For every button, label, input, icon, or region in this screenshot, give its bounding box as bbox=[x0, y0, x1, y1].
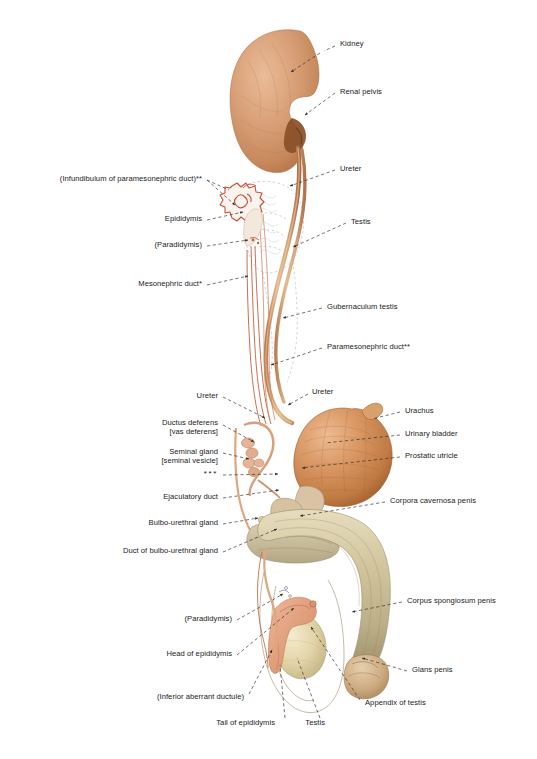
anatomy-illustration bbox=[0, 0, 537, 759]
label-infundibulum-paramesonephric-duct: (Infundibulum of paramesonephric duct)** bbox=[60, 174, 202, 183]
label-urinary-bladder: Urinary bladder bbox=[405, 429, 458, 438]
label-head-of-epididymis: Head of epididymis bbox=[167, 649, 232, 658]
anatomy-figure: KidneyRenal pelvisUreterTestisGubernacul… bbox=[0, 0, 537, 759]
label-duct-of-bulbo-urethral-gland: Duct of bulbo-urethral gland bbox=[123, 546, 218, 555]
label-tail-of-epididymis: Tail of epididymis bbox=[216, 718, 275, 727]
label-paradidymis-lower: (Paradidymis) bbox=[185, 614, 233, 623]
label-bulbo-urethral-gland: Bulbo-urethral gland bbox=[149, 518, 218, 527]
label-renal-pelvis: Renal pelvis bbox=[340, 87, 382, 96]
label-ductus-deferens: Ductus deferens [vas deferens] bbox=[162, 418, 218, 437]
testis-organ bbox=[258, 548, 331, 683]
kidney-organ bbox=[230, 30, 319, 173]
leader-paradidymis-up bbox=[207, 240, 248, 246]
leader-ductus-def bbox=[223, 425, 254, 442]
label-corpora-cavernosa-penis: Corpora cavernosa penis bbox=[390, 496, 476, 505]
label-urachus: Urachus bbox=[405, 406, 434, 415]
infundibulum-structure bbox=[220, 183, 264, 246]
leader-gubernaculum bbox=[283, 308, 322, 318]
leader-ureter-bladder bbox=[288, 394, 308, 405]
label-corpus-spongiosum-penis: Corpus spongiosum penis bbox=[407, 596, 496, 605]
label-ureter-upper: Ureter bbox=[340, 164, 361, 173]
label-ureter-bladder: Ureter bbox=[312, 387, 333, 396]
label-ejaculatory-duct: Ejaculatory duct bbox=[163, 492, 218, 501]
label-appendix-of-testis: Appendix of testis bbox=[365, 698, 426, 707]
leader-paramesoneph bbox=[271, 348, 322, 365]
label-prostatic-utricle: Prostatic utricle bbox=[405, 451, 458, 460]
leader-ejac-duct bbox=[223, 490, 279, 498]
label-paramesonephric-duct: Paramesonephric duct** bbox=[327, 342, 410, 351]
label-epididymis-upper: Epididymis bbox=[165, 214, 202, 223]
leader-ureter-left bbox=[223, 397, 265, 418]
urinary-bladder-organ bbox=[294, 403, 392, 516]
label-kidney: Kidney bbox=[340, 39, 364, 48]
label-testis-ghost: Testis bbox=[351, 217, 371, 226]
ureter-tube bbox=[266, 148, 305, 423]
label-ureter-left: Ureter bbox=[197, 391, 218, 400]
label-seminal-gland: Seminal gland [seminal vesicle] bbox=[161, 447, 218, 466]
leader-mesoneph bbox=[207, 276, 248, 285]
leader-tail-epid bbox=[280, 665, 285, 718]
leader-bulbo-gl bbox=[223, 518, 258, 524]
label-inferior-aberrant-ductule: (Inferior aberrant ductule) bbox=[157, 692, 244, 701]
label-mesonephric-duct: Mesonephric duct* bbox=[138, 279, 202, 288]
label-testis-lower: Testis bbox=[305, 718, 325, 727]
label-gubernaculum-testis: Gubernaculum testis bbox=[327, 302, 398, 311]
label-glans-penis: Glans penis bbox=[412, 665, 453, 674]
label-paradidymis-upper: (Paradidymis) bbox=[155, 240, 203, 249]
label-triple-asterisk: *** bbox=[204, 469, 218, 478]
